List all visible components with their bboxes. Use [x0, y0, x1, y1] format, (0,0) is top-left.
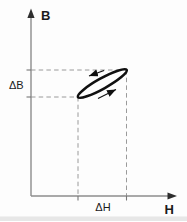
loop-direction-arrow-upper [89, 71, 104, 77]
figure-canvas: B H ΔB ΔH [0, 0, 187, 221]
x-axis-label: H [165, 202, 174, 217]
delta-b-label: ΔB [9, 79, 24, 91]
hysteresis-loop-figure: B H ΔB ΔH [0, 0, 187, 221]
y-axis-arrowhead-icon [27, 9, 34, 19]
figure-shapes [0, 9, 187, 222]
page-scan-edge [0, 217, 187, 222]
y-axis-label: B [41, 8, 50, 23]
x-axis-arrowhead-icon [168, 192, 178, 199]
delta-h-label: ΔH [95, 201, 110, 213]
